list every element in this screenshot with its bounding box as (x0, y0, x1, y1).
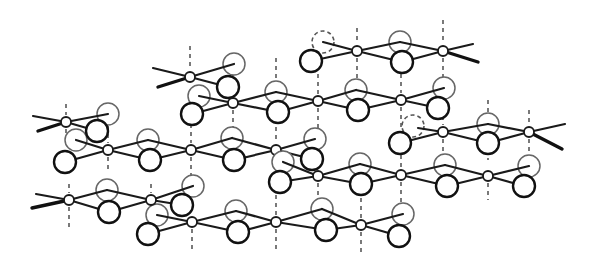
metal-atom (352, 46, 362, 56)
ligand-atom (86, 120, 108, 142)
metal-atom (356, 220, 366, 230)
metal-atom (396, 95, 406, 105)
metal-atom (64, 195, 74, 205)
metal-atom (313, 171, 323, 181)
ligand-atom (98, 201, 120, 223)
chain-layer (32, 31, 565, 247)
ligand-atom (269, 171, 291, 193)
metal-atom (61, 117, 71, 127)
crystal-structure-diagram (0, 0, 593, 263)
ligand-atom (54, 151, 76, 173)
metal-atom (228, 98, 238, 108)
metal-atom (438, 46, 448, 56)
metal-atom (103, 145, 113, 155)
metal-atom (186, 145, 196, 155)
metal-atom (146, 195, 156, 205)
ligand-atom (436, 175, 458, 197)
ligand-atom (513, 175, 535, 197)
metal-atom (185, 72, 195, 82)
metal-atom (524, 127, 534, 137)
ligand-atom (301, 148, 323, 170)
ligand-atom (347, 99, 369, 121)
ligand-atom (181, 103, 203, 125)
metal-atom (271, 217, 281, 227)
metal-atom (483, 171, 493, 181)
ligand-atom (267, 101, 289, 123)
ligand-atom (391, 51, 413, 73)
ligand-atom (223, 149, 245, 171)
metal-atom (313, 96, 323, 106)
ligand-atom (315, 219, 337, 241)
ligand-atom (171, 194, 193, 216)
metal-atom (187, 217, 197, 227)
ligand-atom (139, 149, 161, 171)
ligand-atom (388, 225, 410, 247)
chain-1 (300, 31, 478, 73)
ligand-atom (227, 221, 249, 243)
ligand-atom (217, 76, 239, 98)
ligand-atom (137, 223, 159, 245)
metal-atom (438, 127, 448, 137)
chain-4 (389, 113, 565, 154)
ligand-atom (300, 50, 322, 72)
ligand-atom (350, 173, 372, 195)
ligand-atom (427, 97, 449, 119)
metal-atom (396, 170, 406, 180)
ligand-atom (389, 132, 411, 154)
ligand-atom (477, 132, 499, 154)
